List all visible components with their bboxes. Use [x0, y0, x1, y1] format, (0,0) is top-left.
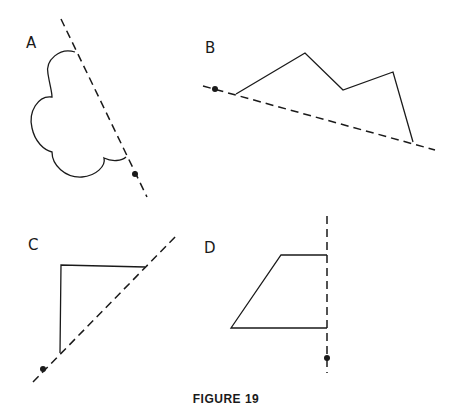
panel-label-c: C: [28, 236, 38, 254]
panel-c: C: [28, 234, 178, 382]
figure-caption: FIGURE 19: [193, 392, 260, 406]
pivot-dot-b: [212, 86, 218, 92]
pivot-dot-d: [324, 355, 330, 361]
panel-d: D: [204, 216, 330, 373]
dashed-axis-a: [61, 19, 147, 197]
pivot-dot-c: [40, 366, 46, 372]
triangle-shape: [60, 265, 145, 353]
panel-label-d: D: [204, 239, 216, 257]
figure-19: A B C D FIGURE 19: [0, 0, 453, 418]
panel-label-a: A: [26, 34, 37, 52]
panel-label-b: B: [205, 39, 215, 57]
dashed-axis-c: [33, 234, 178, 382]
cloud-shape: [31, 51, 126, 177]
panel-b: B: [203, 39, 435, 150]
pivot-dot-a: [132, 171, 138, 177]
zigzag-shape: [236, 53, 413, 142]
panel-a: A: [26, 19, 147, 197]
trapezoid-shape: [231, 255, 327, 328]
